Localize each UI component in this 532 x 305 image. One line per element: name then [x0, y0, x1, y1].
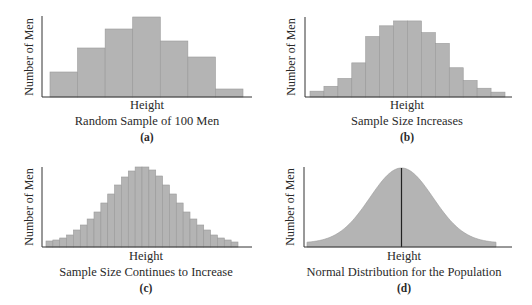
bars-b	[310, 21, 505, 97]
bar-c-18	[163, 185, 170, 247]
bar-c-26	[217, 238, 224, 247]
caption-a: Random Sample of 100 Men	[75, 114, 220, 128]
bar-c-28	[231, 242, 238, 247]
panel-label-c: (c)	[140, 282, 153, 295]
bar-b-4	[352, 63, 366, 97]
bar-c-12	[121, 177, 128, 247]
bar-c-25	[211, 235, 218, 247]
bar-c-15	[142, 167, 149, 247]
panel-c: Number of Men Height Sample Size Continu…	[22, 167, 252, 295]
bar-c-23	[197, 225, 204, 247]
bar-c-24	[204, 230, 211, 247]
bar-c-13	[128, 171, 135, 247]
bar-c-27	[224, 240, 231, 247]
x-label-c: Height	[129, 249, 164, 263]
panel-a: Number of Men Height Random Sample of 10…	[22, 16, 252, 144]
bar-b-1	[310, 91, 324, 97]
bar-b-5	[366, 37, 380, 97]
bars-a	[50, 17, 243, 97]
y-label-c: Number of Men	[22, 168, 36, 245]
bar-c-7	[87, 219, 94, 247]
bar-b-12	[463, 80, 477, 97]
bar-a-6	[188, 57, 216, 97]
bar-c-2	[53, 240, 60, 247]
bar-c-4	[67, 235, 74, 247]
bar-c-5	[73, 230, 80, 247]
bar-b-7	[394, 21, 408, 97]
bar-c-11	[115, 185, 122, 247]
bar-c-3	[60, 238, 67, 247]
bar-c-22	[190, 219, 197, 247]
x-label-d: Height	[387, 249, 422, 263]
panel-d: Number of Men Height Normal Distribution…	[283, 167, 512, 295]
y-label-a: Number of Men	[22, 18, 36, 95]
bar-a-4	[133, 17, 161, 97]
bar-b-11	[449, 68, 463, 97]
bar-c-20	[176, 203, 183, 247]
bar-c-8	[94, 212, 101, 247]
caption-d: Normal Distribution for the Population	[306, 265, 502, 279]
bar-b-9	[421, 33, 435, 97]
bar-c-10	[108, 194, 115, 247]
panel-b: Number of Men Height Sample Size Increas…	[284, 17, 512, 144]
bar-c-9	[101, 203, 108, 247]
bar-c-21	[183, 212, 190, 247]
bar-a-2	[78, 48, 106, 97]
bar-c-16	[149, 170, 156, 247]
bar-b-6	[380, 26, 394, 97]
panel-label-b: (b)	[400, 131, 414, 144]
bar-a-1	[50, 72, 78, 97]
bar-c-19	[169, 194, 176, 247]
panel-label-a: (a)	[140, 131, 154, 144]
panel-label-d: (d)	[397, 282, 411, 295]
y-label-b: Number of Men	[284, 18, 298, 95]
bar-c-14	[135, 167, 142, 247]
x-label-b: Height	[390, 98, 425, 112]
bar-b-8	[408, 21, 422, 97]
caption-b: Sample Size Increases	[351, 114, 463, 128]
bar-b-13	[477, 88, 491, 97]
bar-c-6	[80, 225, 87, 247]
bar-b-10	[435, 43, 449, 97]
bars-c	[46, 167, 238, 247]
bar-a-5	[160, 41, 188, 97]
bar-a-3	[105, 29, 133, 97]
caption-c: Sample Size Continues to Increase	[59, 265, 233, 279]
bar-c-17	[156, 176, 163, 247]
figure: Number of Men Height Random Sample of 10…	[0, 0, 532, 305]
y-label-d: Number of Men	[283, 168, 297, 245]
bar-b-3	[338, 78, 352, 97]
bar-a-7	[215, 89, 243, 97]
bar-b-14	[491, 92, 505, 97]
bar-c-1	[46, 241, 53, 247]
bar-b-2	[324, 86, 338, 97]
x-label-a: Height	[130, 98, 165, 112]
